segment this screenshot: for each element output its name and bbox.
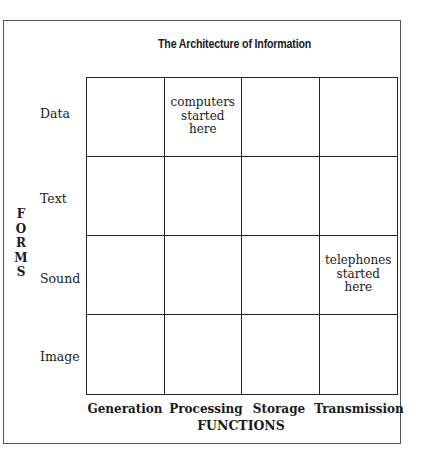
forms-axis-label: F O R M S: [14, 207, 28, 280]
grid-cell: [320, 315, 398, 394]
grid-cell: [242, 315, 320, 394]
cell-annotation: telephones started here: [325, 254, 392, 295]
grid-cell: [87, 157, 165, 236]
grid-cell: [242, 236, 320, 315]
axis-letter: M: [14, 251, 28, 266]
column-label-generation: Generation: [87, 402, 162, 416]
grid-cell-computers: computers started here: [165, 78, 243, 157]
column-label-processing: Processing: [169, 402, 242, 416]
row-label-text: Text: [40, 191, 67, 206]
grid-cell: [165, 236, 243, 315]
grid-cell-telephones: telephones started here: [320, 236, 398, 315]
axis-letter: S: [14, 265, 28, 280]
axis-letter: O: [14, 222, 28, 237]
axis-letter: R: [14, 236, 28, 251]
cell-annotation: computers started here: [170, 96, 235, 137]
grid-cell: [242, 78, 320, 157]
row-label-sound: Sound: [40, 271, 80, 286]
row-label-data: Data: [40, 106, 70, 121]
grid-cell: [320, 157, 398, 236]
function-form-grid: computers started here telephones starte…: [86, 77, 398, 395]
grid-cell: [87, 315, 165, 394]
grid-cell: [320, 78, 398, 157]
grid-cell: [165, 157, 243, 236]
diagram-title: The Architecture of Information: [158, 37, 311, 51]
row-label-image: Image: [40, 349, 80, 364]
grid-cell: [87, 78, 165, 157]
column-label-transmission: Transmission: [314, 402, 404, 416]
grid-cell: [87, 236, 165, 315]
grid-cell: [165, 315, 243, 394]
column-label-storage: Storage: [253, 402, 305, 416]
axis-letter: F: [14, 207, 28, 222]
functions-axis-label: FUNCTIONS: [197, 418, 285, 433]
grid-cell: [242, 157, 320, 236]
